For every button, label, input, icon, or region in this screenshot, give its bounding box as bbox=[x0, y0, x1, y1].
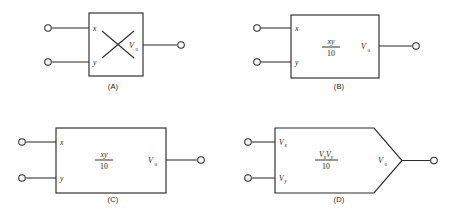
output-label-sub: o bbox=[368, 47, 371, 53]
input-terminal-y bbox=[254, 59, 261, 66]
input-terminal-y bbox=[45, 59, 52, 66]
multiplier-body bbox=[89, 13, 143, 76]
expression-denominator: 10 bbox=[322, 162, 330, 171]
expression-numerator: xy bbox=[327, 37, 335, 46]
input-label-y: y bbox=[294, 58, 299, 67]
input-label-x: x bbox=[59, 138, 64, 147]
expression-denominator: 10 bbox=[327, 49, 335, 58]
panel-b-drawing: xy 10 x y V o bbox=[226, 0, 452, 111]
output-terminal bbox=[431, 157, 438, 164]
input-terminal-vy bbox=[245, 175, 252, 182]
panel-b-caption: (B) bbox=[226, 82, 452, 91]
input-terminal-vx bbox=[245, 139, 252, 146]
panel-b: xy 10 x y V o (B) bbox=[226, 0, 452, 111]
panel-c-drawing: xy 10 x y V o bbox=[0, 111, 226, 222]
input-terminal-y bbox=[19, 175, 26, 182]
output-label-sub: o bbox=[385, 161, 388, 167]
input-label-x: x bbox=[92, 24, 97, 33]
panel-d-drawing: VxVy 10 V x V y V o bbox=[226, 111, 452, 222]
panel-c-caption: (C) bbox=[0, 195, 226, 204]
panel-a-drawing: x y V o bbox=[0, 0, 226, 111]
input-terminal-x bbox=[45, 25, 52, 32]
output-terminal bbox=[198, 157, 205, 164]
panel-a: x y V o (A) bbox=[0, 0, 226, 111]
input-terminal-x bbox=[254, 25, 261, 32]
panel-c: xy 10 x y V o (C) bbox=[0, 111, 226, 222]
output-label-sub: o bbox=[155, 161, 158, 167]
multiplier-symbols-figure: x y V o (A) xy 10 x y V o (B) bbox=[0, 0, 452, 222]
multiplier-body bbox=[275, 128, 402, 193]
output-terminal bbox=[413, 43, 420, 50]
expression-denominator: 10 bbox=[100, 162, 108, 171]
input-terminal-x bbox=[19, 139, 26, 146]
panel-d: VxVy 10 V x V y V o (D) bbox=[226, 111, 452, 222]
panel-d-caption: (D) bbox=[226, 195, 452, 204]
output-label-sub: o bbox=[136, 46, 139, 52]
input-label-y: y bbox=[59, 174, 64, 183]
output-terminal bbox=[178, 42, 185, 49]
input-label-x: x bbox=[294, 24, 299, 33]
panel-a-caption: (A) bbox=[0, 82, 226, 91]
input-label-y: y bbox=[92, 58, 97, 67]
expression-numerator: xy bbox=[100, 150, 108, 159]
